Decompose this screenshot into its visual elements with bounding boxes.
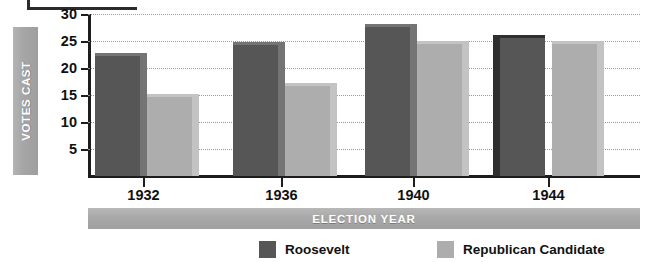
bar-republican-1944: [552, 41, 597, 176]
x-axis-tick-label-1932: 1932: [127, 187, 159, 203]
x-axis-tick-label-1944: 1944: [532, 187, 564, 203]
bar-top-face: [417, 41, 469, 44]
legend-item-republican-candidate[interactable]: Republican Candidate: [437, 238, 605, 260]
y-axis-tick: [81, 14, 88, 16]
y-axis-title-band: VOTES CAST: [13, 27, 38, 175]
bar-front-face: [365, 24, 410, 176]
bar-side-face: [140, 53, 147, 176]
bar-top-face: [147, 94, 199, 97]
bar-republican-1936: [285, 83, 330, 176]
bar-front-face: [233, 42, 278, 176]
bar-chart-figure: VOTES CAST 51015202530 1932193619401944 …: [0, 0, 651, 262]
legend-label: Republican Candidate: [463, 242, 605, 257]
x-axis-title: ELECTION YEAR: [312, 213, 415, 225]
bar-roosevelt-1940: [365, 24, 410, 176]
y-axis-tick-label: 5: [69, 141, 77, 157]
bar-side-face: [493, 35, 500, 176]
bar-top-face: [95, 53, 147, 56]
y-axis-tick: [81, 68, 88, 70]
x-axis-tick: [413, 178, 415, 187]
bar-roosevelt-1932: [95, 53, 140, 176]
chart-legend: RooseveltRepublican Candidate: [0, 238, 651, 260]
bar-top-face: [285, 83, 337, 86]
bar-front-face: [285, 83, 330, 176]
x-axis-tick-label-1936: 1936: [265, 187, 297, 203]
y-axis-tick-label: 25: [61, 33, 77, 49]
legend-item-roosevelt[interactable]: Roosevelt: [259, 238, 350, 260]
x-axis-tick: [548, 178, 550, 187]
bar-side-face: [278, 42, 285, 176]
y-axis-title: VOTES CAST: [20, 61, 32, 140]
bar-front-face: [95, 53, 140, 176]
bar-side-face: [410, 24, 417, 176]
bar-front-face: [552, 41, 597, 176]
legend-swatch: [259, 241, 276, 258]
y-axis-tick-label: 30: [61, 6, 77, 22]
x-axis-title-band: ELECTION YEAR: [88, 208, 640, 229]
bar-front-face: [417, 41, 462, 176]
y-axis-tick-label: 10: [61, 114, 77, 130]
y-axis-tick: [81, 122, 88, 124]
y-axis-tick-label: 20: [61, 60, 77, 76]
bar-top-face: [233, 42, 285, 45]
bar-top-face: [365, 24, 417, 27]
bar-side-face: [597, 41, 604, 176]
bar-top-face: [552, 41, 604, 44]
x-axis-tick-label-1940: 1940: [397, 187, 429, 203]
gridline: [88, 14, 640, 15]
plot-area: 51015202530: [88, 14, 640, 176]
legend-label: Roosevelt: [285, 242, 350, 257]
bar-front-face: [500, 35, 545, 176]
bar-side-face: [330, 83, 337, 176]
legend-swatch: [437, 241, 454, 258]
bar-front-face: [147, 94, 192, 176]
bar-republican-1940: [417, 41, 462, 176]
x-axis-tick: [281, 178, 283, 187]
bar-roosevelt-1944: [500, 35, 545, 176]
y-axis-tick: [81, 149, 88, 151]
y-axis-tick: [81, 95, 88, 97]
x-axis-tick: [143, 178, 145, 187]
bar-side-face: [192, 94, 199, 176]
bar-top-face: [493, 35, 545, 38]
title-box-frame: [27, 0, 137, 10]
bar-side-face: [462, 41, 469, 176]
bar-republican-1932: [147, 94, 192, 176]
bar-roosevelt-1936: [233, 42, 278, 176]
y-axis-tick: [81, 41, 88, 43]
y-axis-tick-label: 15: [61, 87, 77, 103]
